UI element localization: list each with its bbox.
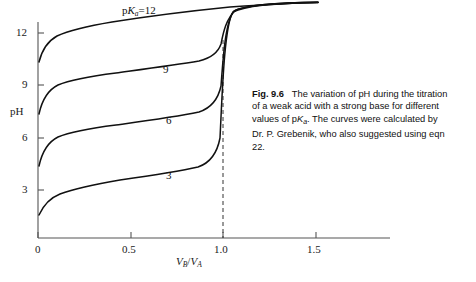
x-axis-label: VB/VA bbox=[176, 255, 202, 269]
x-tick-label-0: 0 bbox=[35, 243, 41, 255]
x-axis-label-v1: V bbox=[176, 255, 183, 267]
curve-label-k: K bbox=[128, 4, 135, 16]
y-tick-label-3: 3 bbox=[22, 183, 28, 195]
curve-label-pka-3: 3 bbox=[166, 169, 172, 181]
curve-label-pka-6: 6 bbox=[166, 114, 172, 126]
x-tick-marks bbox=[38, 232, 316, 238]
curve-label-pka-9: 9 bbox=[163, 63, 169, 75]
x-tick-label-1-5: 1.5 bbox=[307, 243, 321, 255]
x-tick-label-1-0: 1.0 bbox=[214, 243, 228, 255]
figure-caption: Fig. 9.6 The variation of pH during the … bbox=[252, 88, 448, 153]
y-tick-label-12: 12 bbox=[16, 26, 27, 38]
y-axis-label: pH bbox=[10, 105, 23, 117]
x-tick-label-0-5: 0.5 bbox=[122, 243, 136, 255]
x-axis-label-sub-a: A bbox=[197, 260, 202, 269]
curve-label-pka-12: pKa=12 bbox=[122, 4, 156, 18]
curve-label-equals-12: =12 bbox=[139, 4, 156, 16]
caption-figure-number: Fig. 9.6 bbox=[252, 89, 284, 99]
caption-gap bbox=[284, 89, 292, 99]
y-tick-label-9: 9 bbox=[22, 78, 28, 90]
curve-pka-12 bbox=[39, 3, 318, 63]
figure-container: 12 9 6 3 pH 0 0.5 1.0 1.5 VB/VA pKa=12 9… bbox=[0, 0, 476, 282]
y-tick-label-6: 6 bbox=[22, 131, 28, 143]
